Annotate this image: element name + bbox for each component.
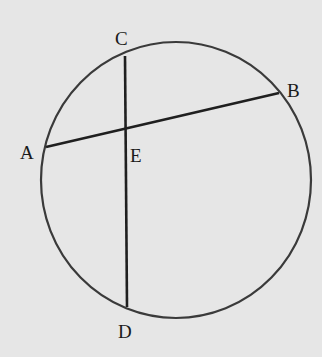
diagram-svg: C B A E D	[0, 0, 322, 357]
label-d: D	[118, 321, 132, 342]
geometry-diagram: C B A E D	[0, 0, 322, 357]
label-e: E	[130, 145, 142, 166]
label-a: A	[20, 142, 34, 163]
chord-cd	[125, 56, 127, 307]
label-c: C	[115, 28, 128, 49]
label-b: B	[287, 80, 300, 101]
chord-ab	[46, 93, 279, 147]
circle	[41, 42, 311, 318]
